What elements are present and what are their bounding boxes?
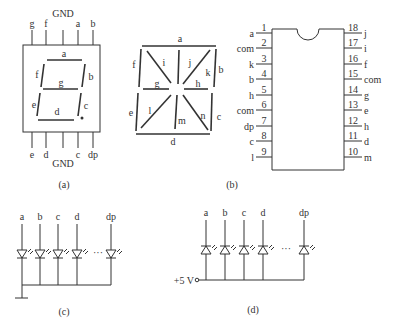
pin-number: 14 [348,84,358,95]
seg-label-b: b [89,71,94,82]
ic-right-pins: 18 17 16 15 14 13 12 11 10 j i f com g e… [344,22,381,163]
pin-label-top: g [30,18,35,29]
pin-function: j [363,28,367,39]
pin-number: 9 [262,146,267,157]
led-icon [35,249,51,258]
led-icon [299,245,315,254]
pin-label-top: a [76,18,81,29]
panel-a-seven-segment: g f GND a b e d GND c dp a b c d e f g (… [23,8,100,191]
seg-label-f: f [132,59,136,70]
led-icon [258,245,274,254]
pin-label-top: f [44,18,48,29]
pin-number: 1 [262,22,267,33]
input-label: d [261,207,266,218]
pin-number: 2 [262,37,267,48]
ic-left-pins: 1 2 3 4 5 6 7 8 9 a com k b h com dp c l [237,22,272,163]
led-icon [239,245,255,254]
led-icon [106,249,122,258]
pin-function: e [364,105,369,116]
segment-e [136,93,138,131]
pin-function: com [364,74,381,85]
pin-function: f [364,59,368,70]
pin-number: 8 [262,130,267,141]
panel-b-fourteen-segment: a b c d e f g h i j k l m n (b) [129,33,238,191]
pin-function: l [251,152,254,163]
seg-label-l: l [149,105,152,116]
pin-number: 11 [348,130,358,141]
seg-label-c: c [217,111,222,122]
seg-label-e: e [129,107,134,118]
pin-label-top-gnd: GND [52,8,74,19]
ellipsis: ··· [93,247,103,258]
pin-number: 3 [262,53,267,64]
seg-label-e: e [32,99,37,110]
seg-label-j: j [188,57,192,68]
ic-body [272,29,344,170]
pin-function: g [364,90,369,101]
pin-number: 7 [262,115,267,126]
supply-label: +5 V [174,275,195,286]
pin-function: dp [244,121,254,132]
input-label: c [242,207,247,218]
segment-f [41,64,44,87]
segment-c [78,93,81,116]
seg-label-d: d [171,136,176,147]
segment-c [211,93,212,131]
ellipsis: ··· [281,243,291,254]
input-label: b [223,207,228,218]
led-icon [53,249,69,258]
input-label: c [56,211,61,222]
segment-l [141,95,171,128]
input-label: d [75,211,80,222]
pin-number: 4 [262,68,267,79]
pin-number: 12 [348,115,358,126]
led-icon [17,249,33,258]
seg-label-b: b [219,64,224,75]
seg-label-g: g [59,77,64,88]
input-label: a [204,207,209,218]
seg-label-h: h [196,78,201,89]
caption-d: (d) [247,304,259,316]
pin-function: m [364,152,372,163]
segment-b [82,64,85,87]
seg-label-c: c [84,100,89,111]
pin-label-bottom: d [44,149,49,160]
pin-number: 5 [262,84,267,95]
seg-label-d: d [55,106,60,117]
pin-function: k [249,59,254,70]
pin-number: 18 [348,22,358,33]
segment-b [214,49,216,87]
caption-c: (c) [58,306,69,318]
panel-d-common-anode: a b c d dp +5 V ··· (d) [174,207,315,316]
seg-label-i: i [163,57,166,68]
seg-label-m: m [178,115,186,126]
pin-label-top: b [91,18,96,29]
led-icon [72,249,88,258]
input-label: a [20,211,25,222]
pin-function: com [237,43,254,54]
pin-number: 10 [348,146,358,157]
pin-function: h [364,121,369,132]
seg-label-n: n [201,110,206,121]
decimal-point [81,117,84,120]
pin-number: 6 [262,99,267,110]
pin-number: 16 [348,53,358,64]
input-label: dp [299,207,309,218]
seg-label-g: g [155,78,160,89]
panel-c-common-cathode: a b c d dp ··· (c) [15,211,122,318]
caption-b: (b) [226,179,238,191]
pin-number: 17 [348,37,358,48]
pin-function: b [249,74,254,85]
pin-function: i [364,43,367,54]
led-icon [201,245,217,254]
pin-function: h [249,90,254,101]
segment-e [37,93,40,116]
seg-label-f: f [35,69,39,80]
pin-function: com [237,105,254,116]
seg-label-a: a [62,48,67,59]
pin-function: c [250,136,255,147]
pin-label-bottom: dp [88,149,98,160]
pin-number: 15 [348,68,358,79]
supply-terminal [195,278,199,282]
caption-a: (a) [58,179,69,191]
